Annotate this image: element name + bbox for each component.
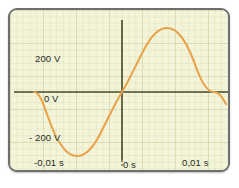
x-tick-label-neg-0-01s: -0,01 s (34, 157, 64, 168)
y-tick-label-200v: 200 V (35, 53, 60, 64)
graph-panel: 200 V 0 V - 200 V -0,01 s 0 s 0,01 s (8, 8, 230, 172)
x-tick-label-0s: 0 s (123, 159, 136, 170)
plot-canvas (10, 10, 230, 172)
y-tick-label-neg-200v: - 200 V (29, 132, 60, 143)
x-tick-label-0-01s: 0,01 s (182, 157, 208, 168)
y-tick-label-0v: 0 V (44, 93, 59, 104)
figure-container: 200 V 0 V - 200 V -0,01 s 0 s 0,01 s (0, 0, 239, 188)
